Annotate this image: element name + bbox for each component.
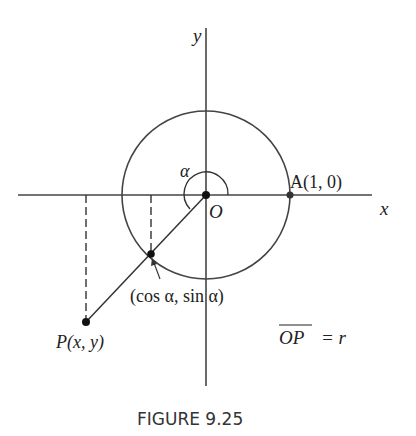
figure-9-25: y x O α A(1, 0) (cos α, sin α) P(x, y) O… <box>0 0 416 436</box>
op-label: OP <box>279 327 305 348</box>
point-p-label: P(x, y) <box>55 332 104 353</box>
y-axis-label: y <box>191 25 202 46</box>
figure-caption: FIGURE 9.25 <box>137 409 243 429</box>
point-p <box>82 318 90 326</box>
unit-circle-diagram: y x O α A(1, 0) (cos α, sin α) P(x, y) O… <box>0 0 416 436</box>
op-equals-r: = r <box>321 327 347 348</box>
point-a-label: A(1, 0) <box>290 172 342 193</box>
origin-point <box>202 191 210 199</box>
x-axis-label: x <box>379 198 389 219</box>
unit-point <box>147 250 155 258</box>
point-a <box>287 192 294 199</box>
angle-label: α <box>180 161 190 181</box>
unit-point-label: (cos α, sin α) <box>130 286 224 307</box>
origin-label: O <box>209 201 223 222</box>
